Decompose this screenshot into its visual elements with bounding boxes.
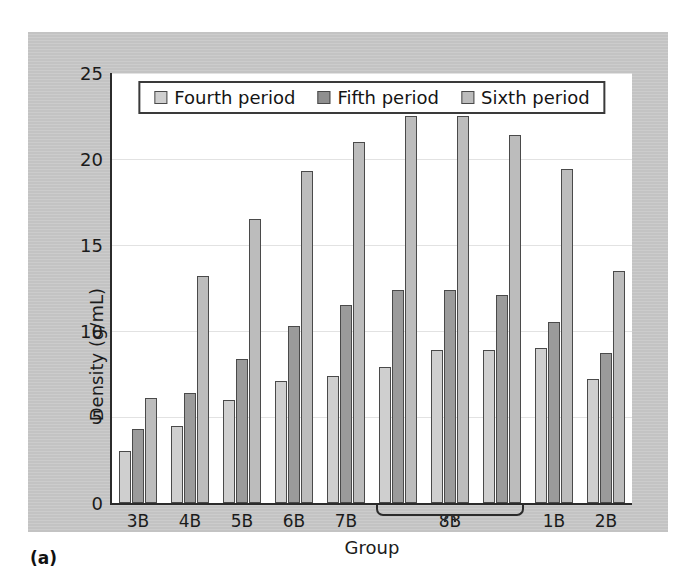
- bar: [405, 116, 417, 503]
- y-axis-tick-label: 20: [80, 149, 103, 170]
- legend-item: Fourth period: [154, 87, 295, 108]
- x-axis-tick-label: 6B: [283, 511, 305, 531]
- y-axis-tick-label: 0: [92, 493, 103, 514]
- bar: [275, 381, 287, 503]
- y-axis-tick-label: 25: [80, 63, 103, 84]
- x-axis-title: Group: [345, 537, 400, 558]
- x-axis-tick-label: 1B: [543, 511, 565, 531]
- legend-label: Fourth period: [174, 87, 295, 108]
- bar: [509, 135, 521, 503]
- x-axis-tick-label: 7B: [335, 511, 357, 531]
- bar: [353, 142, 365, 503]
- bar: [431, 350, 443, 503]
- x-axis-tick-label: 3B: [127, 511, 149, 531]
- bar: [197, 276, 209, 503]
- legend-label: Sixth period: [481, 87, 590, 108]
- figure-caption: (a): [30, 548, 57, 568]
- bar: [132, 429, 144, 503]
- legend-swatch-icon: [317, 91, 330, 104]
- gridline: [112, 245, 632, 246]
- bar: [535, 348, 547, 503]
- bar: [548, 322, 560, 503]
- bar: [288, 326, 300, 503]
- y-axis-title: Density (g/mL): [86, 288, 107, 421]
- bar: [392, 290, 404, 503]
- bar: [327, 376, 339, 503]
- bar: [587, 379, 599, 503]
- legend-item: Fifth period: [317, 87, 439, 108]
- chart-legend: Fourth periodFifth periodSixth period: [138, 81, 605, 114]
- bar: [171, 426, 183, 503]
- x-axis-tick-label: 2B: [595, 511, 617, 531]
- legend-swatch-icon: [461, 91, 474, 104]
- bar: [301, 171, 313, 503]
- group-brace: [376, 505, 524, 516]
- bar: [119, 451, 131, 503]
- x-axis-tick-label: 5B: [231, 511, 253, 531]
- bar: [379, 367, 391, 503]
- bar: [561, 169, 573, 503]
- bar: [613, 271, 625, 503]
- gridline: [112, 73, 632, 74]
- bar: [444, 290, 456, 503]
- bar: [496, 295, 508, 503]
- legend-item: Sixth period: [461, 87, 590, 108]
- x-axis-tick-label: 4B: [179, 511, 201, 531]
- legend-label: Fifth period: [337, 87, 439, 108]
- bar: [600, 353, 612, 503]
- plot-inner: 05101520253B4B5B6B7B8B1B2B: [112, 73, 632, 503]
- bar: [184, 393, 196, 503]
- bar: [223, 400, 235, 503]
- plot-area: 05101520253B4B5B6B7B8B1B2B Density (g/mL…: [110, 73, 632, 505]
- figure-card: 05101520253B4B5B6B7B8B1B2B Density (g/mL…: [28, 32, 668, 532]
- gridline: [112, 159, 632, 160]
- bar: [249, 219, 261, 503]
- bar: [145, 398, 157, 503]
- legend-swatch-icon: [154, 91, 167, 104]
- y-axis-tick-label: 15: [80, 235, 103, 256]
- bar: [236, 359, 248, 503]
- bar: [457, 116, 469, 503]
- bar: [483, 350, 495, 503]
- bar: [340, 305, 352, 503]
